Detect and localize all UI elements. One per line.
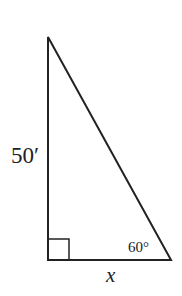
angle-label: 60° <box>128 239 149 255</box>
right-triangle <box>48 37 171 260</box>
right-angle-marker <box>48 239 69 260</box>
vertical-side-label: 50′ <box>11 143 39 168</box>
base-label: x <box>105 263 116 287</box>
triangle-diagram: 50′ 60° x <box>0 0 182 296</box>
